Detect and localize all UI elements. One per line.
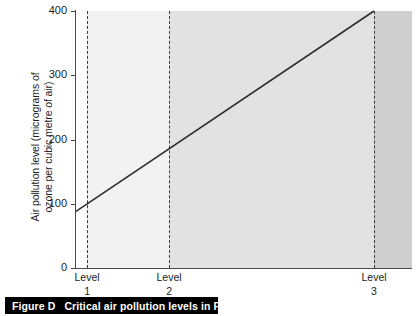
- x-axis-line: [75, 268, 412, 269]
- figure-container: Air pollution level (micrograms of ozone…: [0, 0, 419, 316]
- pollution-trend-line: [76, 11, 412, 268]
- y-tick-label-200: 200: [49, 133, 67, 145]
- level-3-number: 3: [344, 285, 404, 298]
- level-1-name: Level: [57, 271, 117, 284]
- level-2-name: Level: [139, 271, 199, 284]
- level-3-name: Level: [344, 271, 404, 284]
- x-axis-label-level-1: Level 1: [57, 271, 117, 298]
- trend-line-path: [76, 11, 374, 211]
- y-tick-label-100: 100: [49, 197, 67, 209]
- y-axis-title-line-1: Air pollution level (micrograms of: [29, 73, 42, 222]
- y-axis-title-line-2: ozone per cubic metre of air): [42, 82, 55, 213]
- y-tick-0: 0: [71, 268, 76, 269]
- y-tick-label-400: 400: [49, 4, 67, 16]
- plot-area: 400 300 200 100 0: [76, 11, 412, 268]
- figure-caption-bar: Figure D Critical air pollution levels i…: [5, 297, 218, 314]
- figure-caption-text: Critical air pollution levels in Paris: [55, 300, 239, 312]
- y-tick-label-300: 300: [49, 68, 67, 80]
- figure-caption-label: Figure D: [5, 300, 55, 312]
- x-axis-label-level-3: Level 3: [344, 271, 404, 298]
- y-axis-title: Air pollution level (micrograms of ozone…: [25, 22, 59, 272]
- x-axis-label-level-2: Level 2: [139, 271, 199, 298]
